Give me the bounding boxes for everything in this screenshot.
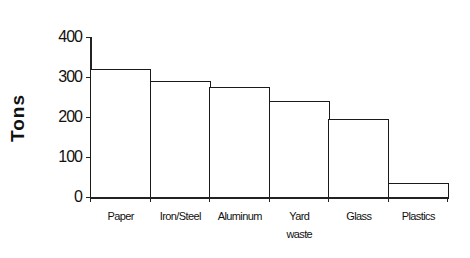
- x-tick-mark: [150, 197, 151, 202]
- x-tick-label: Plastics: [389, 207, 449, 225]
- y-tick-label: 0: [42, 188, 82, 206]
- bar: [269, 101, 330, 197]
- x-tick-label: Iron/Steel: [151, 207, 211, 225]
- bar: [209, 87, 270, 197]
- bar: [328, 119, 389, 197]
- x-tick-mark: [388, 197, 389, 202]
- bar: [388, 183, 449, 197]
- y-tick-label: 400: [42, 28, 82, 46]
- x-tick-mark: [328, 197, 329, 202]
- x-tick-label: Glass: [329, 207, 389, 225]
- x-tick-mark: [90, 197, 91, 202]
- y-tick-label: 300: [42, 68, 82, 86]
- x-tick-label: Yardwaste: [270, 207, 330, 243]
- bar-chart: Tons 0 100 200 300 400 PaperIron/SteelAl…: [0, 0, 470, 258]
- bar: [150, 81, 211, 197]
- bar: [90, 69, 151, 197]
- y-tick-label: 200: [42, 108, 82, 126]
- x-tick-mark: [269, 197, 270, 202]
- x-tick-mark: [209, 197, 210, 202]
- y-tick-mark: [86, 37, 91, 38]
- x-tick-label: Paper: [91, 207, 151, 225]
- y-tick-label: 100: [42, 148, 82, 166]
- x-tick-label: Aluminum: [210, 207, 270, 225]
- y-axis-label: Tons: [7, 94, 29, 142]
- x-tick-mark: [447, 197, 448, 202]
